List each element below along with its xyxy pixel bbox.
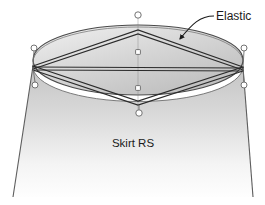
tether-right-upper <box>243 51 244 67</box>
grommet-right-lower-icon <box>241 82 247 88</box>
skirt-label: Skirt RS <box>112 137 155 149</box>
grommet-left-lower-icon <box>32 82 38 88</box>
grommet-right-upper-icon <box>241 45 247 51</box>
grommet-rod-lower-icon <box>136 86 141 91</box>
grommet-left-upper-icon <box>31 45 37 51</box>
elastic-label: Elastic <box>216 9 251 23</box>
diagram-canvas: Elastic Skirt RS <box>0 0 265 205</box>
grommet-rod-mid-icon <box>136 50 141 55</box>
skirt-rs-diagram: Elastic Skirt RS <box>0 0 265 205</box>
grommet-rod-top-icon <box>135 12 141 18</box>
grommet-apex-bottom-icon <box>136 110 142 116</box>
